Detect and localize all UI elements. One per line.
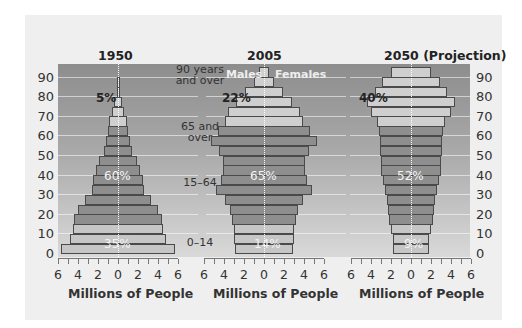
x-tick-mark — [284, 259, 285, 264]
x-tick-mark — [148, 259, 149, 264]
x-tick-mark — [471, 259, 472, 264]
x-tick-mark — [224, 259, 225, 264]
x-tick-mark — [98, 259, 99, 264]
x-tick-mark — [381, 259, 382, 264]
x-tick-mark — [234, 259, 235, 264]
x-tick-mark — [58, 259, 59, 264]
x-tick-label: 2 — [237, 267, 251, 282]
age-label-90-over: 90 years and over — [175, 64, 225, 86]
y-tick-label: 30 — [476, 187, 498, 202]
x-tick-label: 2 — [91, 267, 105, 282]
x-tick-mark — [361, 259, 362, 264]
x-tick-label: 2 — [277, 267, 291, 282]
x-tick-mark — [78, 259, 79, 264]
x-tick-mark — [204, 259, 205, 264]
x-tick-mark — [431, 259, 432, 264]
x-tick-label: 6 — [464, 267, 478, 282]
x-tick-mark — [351, 259, 352, 264]
x-tick-mark — [244, 259, 245, 264]
x-tick-mark — [441, 259, 442, 264]
y-tick-label: 50 — [476, 148, 498, 163]
y-tick-label: 40 — [476, 168, 498, 183]
panel-title-2050: 2050 (Projection) — [384, 48, 506, 63]
x-tick-label: 6 — [344, 267, 358, 282]
center-line — [411, 64, 412, 257]
y-tick-label: 10 — [32, 226, 54, 241]
x-tick-mark — [158, 259, 159, 264]
x-tick-label: 6 — [197, 267, 211, 282]
y-tick-label: 0 — [476, 246, 498, 261]
y-tick-label: 20 — [476, 207, 498, 222]
share-2050-15-64: 52% — [397, 169, 424, 183]
x-tick-mark — [461, 259, 462, 264]
x-tick-mark — [138, 259, 139, 264]
x-tick-mark — [391, 259, 392, 264]
share-1950-65plus: 5% — [96, 91, 116, 105]
y-tick-label: 80 — [476, 89, 498, 104]
x-tick-mark — [128, 259, 129, 264]
x-tick-mark — [168, 259, 169, 264]
y-tick-label: 20 — [32, 207, 54, 222]
y-tick-label: 80 — [32, 89, 54, 104]
y-tick-label: 90 — [32, 70, 54, 85]
x-tick-label: 6 — [317, 267, 331, 282]
age-label-65-over: 65 and over — [175, 121, 225, 143]
share-2050-65plus: 40% — [359, 91, 388, 105]
y-tick-label: 70 — [476, 109, 498, 124]
x-tick-mark — [264, 259, 265, 264]
x-tick-mark — [411, 259, 412, 264]
gridline — [58, 116, 198, 117]
x-tick-mark — [88, 259, 89, 264]
x-tick-label: 6 — [51, 267, 65, 282]
x-tick-mark — [324, 259, 325, 264]
x-tick-label: 0 — [404, 267, 418, 282]
share-1950-0-14: 35% — [104, 237, 131, 251]
x-tick-label: 2 — [424, 267, 438, 282]
x-tick-mark — [401, 259, 402, 264]
share-2005-15-64: 65% — [250, 169, 277, 183]
x-tick-label: 6 — [171, 267, 185, 282]
x-tick-mark — [214, 259, 215, 264]
x-tick-label: 4 — [217, 267, 231, 282]
x-tick-mark — [108, 259, 109, 264]
y-tick-label: 70 — [32, 109, 54, 124]
x-tick-mark — [254, 259, 255, 264]
y-tick-label: 60 — [476, 128, 498, 143]
y-tick-label: 60 — [32, 128, 54, 143]
share-2050-0-14: 9% — [404, 237, 423, 251]
gridline — [58, 96, 198, 97]
x-tick-mark — [451, 259, 452, 264]
age-label-0-14: 0–14 — [175, 237, 225, 248]
x-axis-title-2005: Millions of People — [213, 286, 338, 301]
x-axis-1 — [204, 258, 324, 265]
center-line — [264, 64, 265, 257]
x-tick-mark — [274, 259, 275, 264]
x-axis-0 — [58, 258, 178, 265]
x-tick-mark — [314, 259, 315, 264]
x-tick-label: 2 — [131, 267, 145, 282]
center-line — [118, 64, 119, 257]
y-tick-label: 40 — [32, 168, 54, 183]
x-axis-title-1950: Millions of People — [68, 286, 193, 301]
x-tick-label: 0 — [257, 267, 271, 282]
x-tick-label: 4 — [444, 267, 458, 282]
share-2005-65plus: 22% — [222, 91, 251, 105]
x-tick-label: 4 — [297, 267, 311, 282]
x-tick-mark — [371, 259, 372, 264]
x-tick-label: 4 — [71, 267, 85, 282]
legend-males: Males — [226, 68, 262, 81]
x-tick-label: 4 — [151, 267, 165, 282]
y-tick-label: 30 — [32, 187, 54, 202]
share-1950-15-64: 60% — [104, 169, 131, 183]
x-tick-mark — [421, 259, 422, 264]
x-tick-label: 0 — [111, 267, 125, 282]
x-tick-mark — [304, 259, 305, 264]
panel-title-1950: 1950 — [98, 48, 133, 63]
age-label-15-64: 15–64 — [175, 177, 225, 188]
plot-area — [58, 64, 470, 257]
y-tick-label: 90 — [476, 70, 498, 85]
x-tick-mark — [178, 259, 179, 264]
share-2005-0-14: 14% — [254, 237, 281, 251]
x-axis-title-2050: Millions of People — [359, 286, 484, 301]
x-tick-mark — [294, 259, 295, 264]
